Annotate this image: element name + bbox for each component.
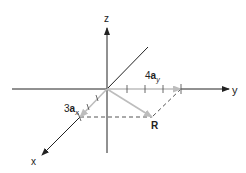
x-axis-back — [107, 47, 148, 89]
label-3ax: 3ax — [64, 103, 79, 116]
label-4ay: 4ay — [145, 70, 160, 84]
y-axis-label: y — [232, 84, 238, 96]
vector-diagram: z y x 4ay 3ax R — [0, 0, 246, 173]
z-axis-label: z — [104, 13, 109, 24]
vector-r — [107, 89, 152, 117]
vector-3ax — [80, 89, 107, 117]
x-axis — [42, 117, 80, 155]
label-r: R — [151, 120, 159, 131]
dashed-line-ay-to-r — [152, 89, 181, 117]
x-axis-label: x — [31, 156, 36, 167]
